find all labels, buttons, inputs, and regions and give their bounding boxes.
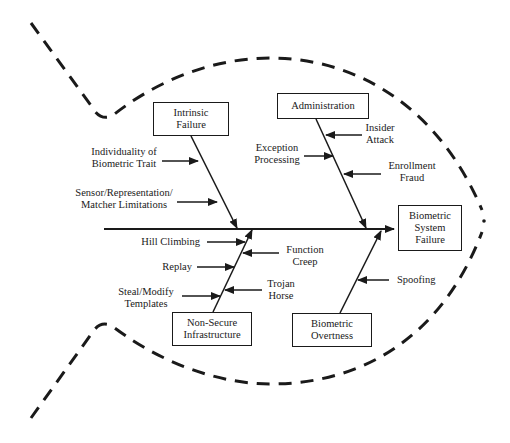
category-administration: Administration <box>277 93 369 119</box>
category-intrinsic-failure: Intrinsic Failure <box>153 102 229 136</box>
cause-hill-climbing: Hill Climbing <box>136 236 200 248</box>
fishbone-diagram: Intrinsic Failure Administration Non-Sec… <box>0 0 510 443</box>
bone-biometric-overtness <box>340 231 381 313</box>
cause-function-creep: Function Creep <box>283 244 327 268</box>
category-non-secure-infrastructure: Non-Secure Infrastructure <box>172 312 252 346</box>
cause-spoofing: Spoofing <box>397 274 441 286</box>
bone-intrinsic-failure <box>191 136 237 228</box>
cause-individuality-of-biometric-trait: Individuality of Biometric Trait <box>88 146 160 170</box>
fish-eye-icon <box>482 219 486 223</box>
cause-insider-attack: Insider Attack <box>362 122 398 146</box>
cause-sensor-representation-matcher-limitations: Sensor/Representation/ Matcher Limitatio… <box>74 187 174 211</box>
fish-outline-bottom <box>31 232 482 418</box>
cause-trojan-horse: Trojan Horse <box>264 278 298 302</box>
effect-biometric-system-failure: Biometric System Failure <box>398 205 462 251</box>
cause-enrollment-fraud: Enrollment Fraud <box>384 160 440 184</box>
category-biometric-overtness: Biometric Overtness <box>292 313 372 347</box>
cause-exception-processing: Exception Processing <box>250 142 304 166</box>
cause-steal-modify-templates: Steal/Modify Templates <box>114 286 178 310</box>
cause-replay: Replay <box>150 261 192 273</box>
